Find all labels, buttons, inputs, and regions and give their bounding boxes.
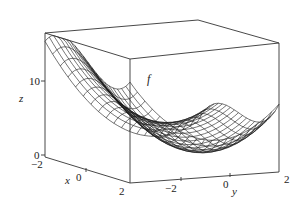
y-tick-2: 2	[284, 174, 290, 185]
surface-mesh	[45, 36, 279, 153]
bounding-box	[41, 20, 279, 183]
surface-plot	[0, 0, 298, 209]
z-tick-10: 10	[29, 76, 40, 87]
x-axis-label: x	[65, 175, 70, 186]
x-tick-minus2: −2	[31, 159, 43, 170]
y-axis-label: y	[232, 186, 237, 197]
x-tick-2: 2	[119, 186, 125, 197]
y-tick-0: 0	[223, 179, 229, 190]
y-tick-minus2: −2	[165, 183, 177, 194]
z-axis-label: z	[19, 93, 23, 104]
x-tick-0: 0	[76, 172, 82, 183]
surface-label-f: f	[147, 73, 150, 85]
